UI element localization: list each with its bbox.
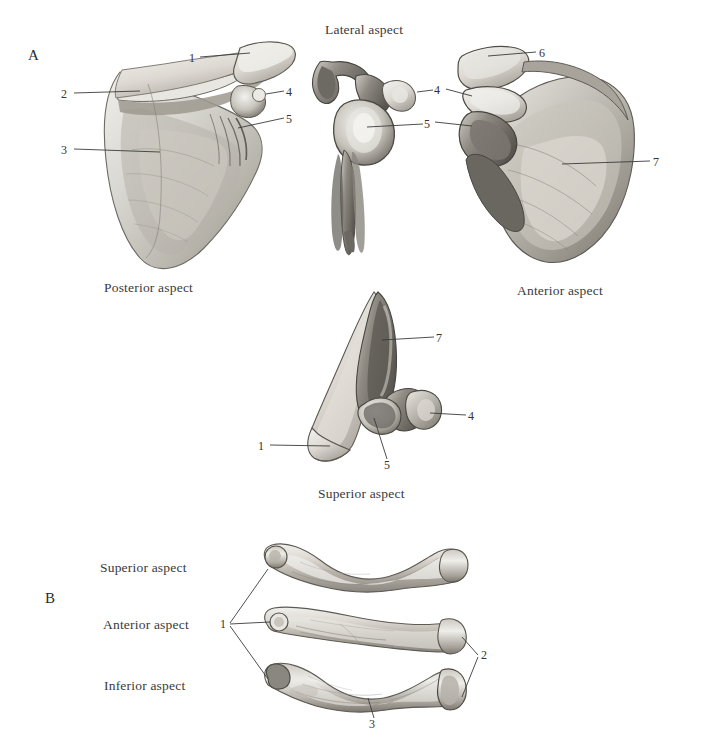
caption-lateral-aspect: Lateral aspect	[325, 22, 403, 38]
scapula-superior-aspect-illustration	[270, 292, 466, 461]
panel-letter-b: B	[45, 590, 56, 607]
anatomical-figure-page: A B Lateral aspect Posterior aspect Ante…	[0, 0, 701, 754]
label-superior-4: 4	[468, 409, 474, 424]
caption-anterior-aspect: Anterior aspect	[517, 283, 603, 299]
label-posterior-3: 3	[61, 143, 67, 158]
caption-clavicle-superior-aspect: Superior aspect	[100, 560, 187, 576]
label-posterior-4: 4	[286, 85, 292, 100]
label-posterior-1: 1	[189, 51, 195, 66]
caption-superior-aspect-scapula: Superior aspect	[318, 486, 405, 502]
label-posterior-2: 2	[61, 87, 67, 102]
caption-posterior-aspect: Posterior aspect	[104, 280, 193, 296]
clavicle-inferior-aspect-illustration	[265, 663, 467, 712]
clavicle-anterior-aspect-illustration	[265, 607, 467, 654]
clavicle-superior-aspect-illustration	[264, 544, 468, 592]
panel-letter-a: A	[28, 47, 39, 64]
scapula-lateral-aspect-illustration	[313, 61, 433, 255]
leader-line-clavicle-1-superior	[230, 569, 268, 623]
figure-illustration-canvas	[0, 0, 701, 754]
caption-clavicle-anterior-aspect: Anterior aspect	[103, 617, 189, 633]
label-lateral-4: 4	[434, 83, 440, 98]
label-clavicle-2: 2	[481, 648, 487, 663]
scapula-anterior-aspect-illustration	[435, 46, 650, 262]
leader-line-clavicle-2-inferior	[462, 657, 478, 697]
leader-line-posterior-4	[266, 91, 284, 94]
label-anterior-7: 7	[653, 155, 659, 170]
label-anterior-6: 6	[539, 46, 545, 61]
leader-line-lateral-4	[417, 90, 433, 92]
label-superior-7: 7	[436, 331, 442, 346]
label-posterior-5: 5	[286, 112, 292, 127]
label-superior-1: 1	[258, 439, 264, 454]
scapula-posterior-aspect-illustration	[74, 42, 295, 269]
caption-clavicle-inferior-aspect: Inferior aspect	[104, 678, 185, 694]
leader-line-clavicle-1-anterior	[230, 622, 270, 624]
label-clavicle-3: 3	[369, 717, 375, 732]
label-clavicle-1: 1	[220, 617, 226, 632]
label-superior-5: 5	[384, 458, 390, 473]
leader-line-clavicle-1-inferior	[230, 626, 268, 679]
label-lateral-5: 5	[424, 117, 430, 132]
